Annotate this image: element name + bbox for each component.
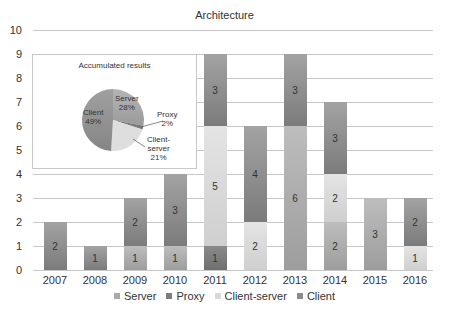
y-tick-label: 8 (0, 72, 22, 84)
bar-segment-client: 4 (244, 126, 267, 222)
bar-segment-server: 6 (284, 126, 307, 270)
legend-item-proxy: Proxy (166, 290, 204, 302)
bar-segment-client-server: 2 (324, 174, 347, 222)
pie-label-proxy: Proxy2% (157, 110, 177, 128)
legend-swatch-server (114, 293, 120, 299)
bar-segment-client: 3 (284, 54, 307, 126)
legend-item-client: Client (297, 290, 335, 302)
legend-swatch-client (297, 293, 303, 299)
y-tick-label: 1 (0, 240, 22, 252)
bar-segment-client: 3 (324, 102, 347, 174)
bar-segment-client: 2 (124, 198, 147, 246)
legend-item-client-server: Client-server (215, 290, 287, 302)
gridline (33, 30, 433, 31)
pie-label-client: Client49% (83, 108, 103, 126)
y-tick-label: 4 (0, 168, 22, 180)
bar-segment-server: 1 (164, 246, 187, 270)
chart-title: Architecture (0, 9, 449, 21)
bar-segment-client: 2 (404, 198, 427, 246)
x-tick-label: 2010 (155, 274, 195, 286)
legend: Server Proxy Client-server Client (0, 290, 449, 302)
pie-inset: Accumulated results Server28% Proxy2% Cl… (32, 54, 197, 169)
x-tick-label: 2014 (315, 274, 355, 286)
bar-segment-server: 1 (124, 246, 147, 270)
pie-label-client-server: Client-server21% (147, 135, 170, 162)
gridline (33, 174, 433, 175)
x-tick-label: 2008 (75, 274, 115, 286)
y-tick-label: 3 (0, 192, 22, 204)
x-tick-label: 2015 (355, 274, 395, 286)
bar-segment-client: 2 (44, 222, 67, 270)
legend-swatch-client-server (215, 293, 221, 299)
gridline (33, 270, 433, 271)
y-tick-label: 2 (0, 216, 22, 228)
y-tick-label: 9 (0, 48, 22, 60)
pie-label-server: Server28% (115, 94, 139, 112)
y-tick-label: 5 (0, 144, 22, 156)
bar-segment-client: 3 (204, 54, 227, 126)
bar-segment-client-server: 5 (204, 126, 227, 246)
x-tick-label: 2012 (235, 274, 275, 286)
bar-segment-client: 1 (84, 246, 107, 270)
x-tick-label: 2009 (115, 274, 155, 286)
x-tick-label: 2013 (275, 274, 315, 286)
x-tick-label: 2016 (395, 274, 435, 286)
x-tick-label: 2007 (35, 274, 75, 286)
y-tick-label: 0 (0, 264, 22, 276)
bar-segment-proxy: 1 (204, 246, 227, 270)
legend-swatch-proxy (166, 293, 172, 299)
legend-item-server: Server (114, 290, 156, 302)
y-tick-label: 7 (0, 96, 22, 108)
y-tick-label: 6 (0, 120, 22, 132)
y-tick-label: 10 (0, 24, 22, 36)
bar-segment-server: 3 (364, 198, 387, 270)
bar-segment-client-server: 2 (244, 222, 267, 270)
bar-segment-client: 3 (164, 174, 187, 246)
bar-segment-server: 2 (324, 222, 347, 270)
x-tick-label: 2011 (195, 274, 235, 286)
bar-segment-client-server: 1 (404, 246, 427, 270)
